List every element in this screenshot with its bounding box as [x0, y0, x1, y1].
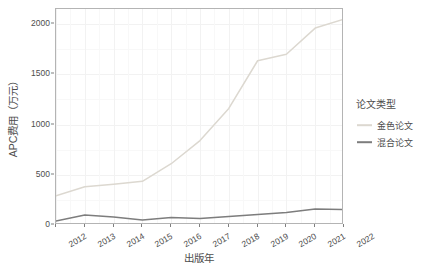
legend-line-icon: [356, 117, 373, 133]
x-tick-label: 2022: [355, 231, 376, 249]
series-line: [56, 209, 343, 221]
legend-line-icon: [356, 134, 373, 150]
series-lines: [56, 9, 343, 224]
y-tick-label: 1500: [22, 68, 50, 78]
legend: 论文类型 金色论文混合论文: [356, 96, 436, 151]
legend-title: 论文类型: [356, 96, 436, 111]
x-tick-label: 2018: [240, 231, 261, 249]
y-tick-label: 1000: [22, 119, 50, 129]
x-tick-label: 2013: [96, 231, 117, 249]
legend-item[interactable]: 混合论文: [356, 134, 436, 150]
line-chart: APC费用（万元） 0500100015002000 2012201320142…: [0, 0, 438, 268]
x-tick-mark: [314, 224, 315, 227]
y-tick-mark: [51, 23, 54, 24]
y-tick-mark: [51, 123, 54, 124]
x-tick-mark: [343, 224, 344, 227]
x-tick-label: 2019: [268, 231, 289, 249]
y-tick-label: 0: [22, 219, 50, 229]
x-tick-label: 2012: [67, 231, 88, 249]
y-tick-mark: [51, 73, 54, 74]
series-line: [56, 19, 343, 196]
x-tick-label: 2016: [182, 231, 203, 249]
y-tick-mark: [51, 173, 54, 174]
x-tick-mark: [84, 224, 85, 227]
legend-item[interactable]: 金色论文: [356, 117, 436, 133]
x-tick-label: 2015: [153, 231, 174, 249]
x-tick-mark: [257, 224, 258, 227]
x-axis-tick-labels: 2012201320142015201620172018201920202021…: [55, 224, 343, 252]
x-tick-mark: [199, 224, 200, 227]
y-axis-title: APC费用（万元）: [4, 0, 22, 232]
x-tick-mark: [113, 224, 114, 227]
legend-item-label: 混合论文: [377, 136, 413, 149]
y-tick-label: 2000: [22, 18, 50, 28]
y-tick-mark: [51, 224, 54, 225]
x-axis-title-label: 出版年: [184, 252, 214, 264]
legend-items: 金色论文混合论文: [356, 117, 436, 150]
y-tick-label: 500: [22, 169, 50, 179]
x-tick-label: 2017: [211, 231, 232, 249]
x-tick-label: 2021: [326, 231, 347, 249]
y-axis-tick-labels: 0500100015002000: [22, 0, 50, 232]
plot-panel: [55, 8, 343, 224]
x-tick-mark: [141, 224, 142, 227]
x-axis-title: 出版年: [55, 250, 343, 265]
x-tick-mark: [170, 224, 171, 227]
x-tick-label: 2014: [124, 231, 145, 249]
x-tick-mark: [285, 224, 286, 227]
x-tick-label: 2020: [297, 231, 318, 249]
legend-item-label: 金色论文: [377, 119, 413, 132]
y-axis-title-label: APC费用（万元）: [6, 75, 21, 157]
x-tick-mark: [55, 224, 56, 227]
x-tick-mark: [228, 224, 229, 227]
